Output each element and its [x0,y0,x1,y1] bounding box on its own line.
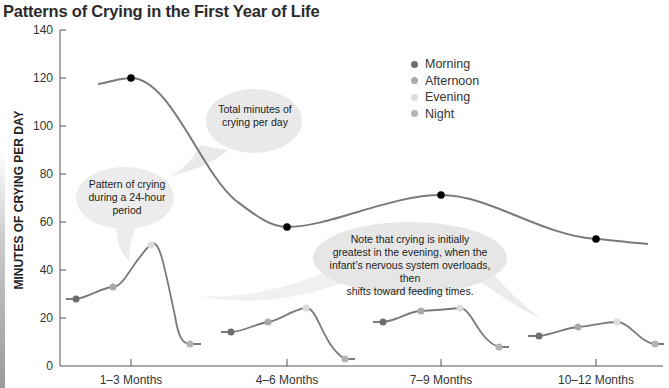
night-dot-icon [411,110,418,117]
y-tick-20: 20 [40,311,54,325]
annotation-pattern: Pattern of crying during a 24-hour perio… [82,178,172,217]
legend-label: Evening [425,90,470,104]
legend-item-evening: Evening [411,89,479,106]
annotation-total-line: Total minutes of [214,103,296,116]
legend-label: Night [425,107,454,121]
annotation-pattern-line: Pattern of crying [82,178,172,191]
y-tick-60: 60 [40,215,54,229]
legend-item-afternoon: Afternoon [411,73,479,90]
y-tick-140: 140 [33,23,53,37]
y-tick-0: 0 [46,359,53,373]
y-tick-80: 80 [40,167,54,181]
daily-pattern-10-12 [528,319,664,348]
annotation-note-line: greatest in the evening, when the [320,246,500,259]
y-tick-100: 100 [33,119,53,133]
x-axis [60,359,663,366]
morning-dot-icon [411,61,418,68]
annotation-total-line: crying per day [214,116,296,129]
annotation-note-line: infant’s nervous system overloads, then [320,259,500,285]
total-crying-series [98,74,648,244]
legend-label: Afternoon [425,74,479,88]
legend-label: Morning [425,57,470,71]
daily-pattern-1-3 [66,242,201,348]
annotation-note-line: shifts toward feeding times. [320,285,500,298]
annotation-pattern-line: period [82,204,172,217]
legend-item-night: Night [411,106,479,123]
annotation-note: Note that crying is initially greatest i… [320,233,500,298]
legend-item-morning: Morning [411,56,479,73]
point-7-9 [437,191,445,199]
point-10-12 [592,235,600,243]
point-4-6 [283,223,291,231]
y-tick-40: 40 [40,263,54,277]
y-axis [60,30,66,366]
daily-pattern-7-9 [373,305,509,351]
x-tick-10-12: 10–12 Months [558,373,634,387]
evening-dot-icon [411,94,418,101]
legend: Morning Afternoon Evening Night [411,56,479,122]
x-tick-1-3: 1–3 Months [100,373,163,387]
annotation-total: Total minutes of crying per day [214,103,296,129]
daily-pattern-4-6 [221,305,355,363]
afternoon-dot-icon [411,77,418,84]
point-1-3 [127,74,135,82]
y-axis-label: MINUTES OF CRYING PER DAY [12,110,26,289]
annotation-pattern-line: during a 24-hour [82,191,172,204]
x-tick-7-9: 7–9 Months [410,373,473,387]
annotation-note-line: Note that crying is initially [320,233,500,246]
y-tick-120: 120 [33,71,53,85]
x-tick-4-6: 4–6 Months [256,373,319,387]
